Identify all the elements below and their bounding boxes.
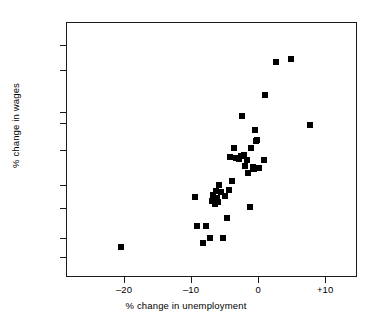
y-axis-title: % change in wages — [10, 26, 21, 226]
data-point-marker — [242, 163, 248, 169]
data-point-marker — [239, 113, 245, 119]
data-point-marker — [226, 187, 232, 193]
y-tick-mark — [60, 112, 67, 113]
y-tick-mark — [60, 238, 67, 239]
data-point-marker — [231, 145, 237, 151]
x-tick-label: 0 — [228, 285, 288, 295]
scatter-chart-figure: 250300400500700900100015001900 –20–100+1… — [0, 0, 372, 329]
data-point-marker — [262, 92, 268, 98]
data-point-marker — [254, 137, 260, 143]
data-point-marker — [118, 244, 124, 250]
x-axis-title: % change in unemployment — [0, 300, 372, 311]
data-point-marker — [248, 145, 254, 151]
y-tick-mark — [60, 45, 67, 46]
y-tick-mark — [60, 150, 67, 151]
data-point-marker — [244, 157, 250, 163]
x-tick-mark — [124, 276, 125, 283]
data-point-marker — [256, 165, 262, 171]
y-tick-mark — [60, 257, 67, 258]
y-tick-mark — [60, 185, 67, 186]
data-point-marker — [288, 56, 294, 62]
data-point-marker — [192, 194, 198, 200]
x-tick-mark — [325, 276, 326, 283]
data-point-marker — [252, 127, 258, 133]
data-point-marker — [222, 193, 228, 199]
data-point-marker — [307, 122, 313, 128]
data-point-marker — [224, 215, 230, 221]
y-tick-mark — [60, 208, 67, 209]
data-point-marker — [203, 223, 209, 229]
data-point-marker — [261, 157, 267, 163]
plot-area: 250300400500700900100015001900 –20–100+1… — [66, 22, 357, 277]
data-point-marker — [220, 235, 226, 241]
data-point-marker — [216, 182, 222, 188]
x-tick-mark — [258, 276, 259, 283]
data-point-marker — [207, 235, 213, 241]
data-point-marker — [273, 59, 279, 65]
x-tick-mark — [191, 276, 192, 283]
data-point-marker — [229, 178, 235, 184]
x-tick-label: +10 — [295, 285, 355, 295]
x-tick-label: –20 — [94, 285, 154, 295]
x-tick-label: –10 — [161, 285, 221, 295]
data-point-marker — [194, 223, 200, 229]
y-tick-mark — [60, 123, 67, 124]
data-point-marker — [215, 199, 221, 205]
data-point-marker — [200, 240, 206, 246]
data-point-marker — [247, 204, 253, 210]
y-tick-mark — [60, 70, 67, 71]
